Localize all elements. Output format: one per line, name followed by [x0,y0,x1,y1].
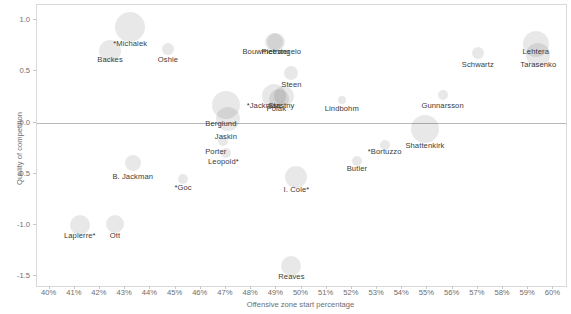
data-point-label: Steen [281,79,301,88]
data-point-label: Gunnarsson [421,101,463,110]
x-axis-tick-mark [376,286,377,289]
x-axis-tick-mark [175,286,176,289]
x-axis-tick-label: 51% [318,288,333,297]
data-point-label: Tarasenko [520,60,556,69]
x-axis-tick-label: 50% [293,288,308,297]
plot-area: *MichalekBackesOshieBouwmeesterPietrange… [36,4,567,287]
x-axis-tick-mark [301,286,302,289]
y-axis: Quality of competition 1.00.50.0-0.5-1.0… [0,4,36,285]
data-point-label: B. Jackman [112,171,153,180]
data-point-bubble [438,90,448,100]
data-point-label: Polak [267,104,287,113]
x-axis: 40%41%42%43%44%45%46%47%48%49%50%51%52%5… [36,286,565,300]
data-point-label: Lapierre* [64,230,96,239]
bubble-scatter-chart: Quality of competition 1.00.50.0-0.5-1.0… [0,0,571,314]
x-axis-tick-mark [527,286,528,289]
x-axis-tick-label: 55% [419,288,434,297]
x-axis-tick-label: 49% [268,288,283,297]
x-axis-tick-mark [74,286,75,289]
x-axis-tick-label: 52% [343,288,358,297]
x-axis-tick-label: 53% [368,288,383,297]
x-axis-tick-label: 56% [444,288,459,297]
x-axis-tick-mark [351,286,352,289]
data-point-label: *Goc [174,182,191,191]
x-axis-tick-label: 45% [167,288,182,297]
y-axis-tick-label: 0.0 [19,117,30,126]
data-point-bubble [472,47,484,59]
y-axis-tick-label: 0.5 [19,66,30,75]
x-axis-tick-label: 41% [66,288,81,297]
data-point-label: Berglund [205,118,236,127]
data-point-label: Porter [205,147,226,156]
data-point-bubble [411,115,439,143]
data-point-label: Lindbohm [325,104,359,113]
x-axis-tick-mark [200,286,201,289]
x-axis-tick-label: 54% [394,288,409,297]
x-axis-tick-label: 58% [494,288,509,297]
x-axis-tick-mark [149,286,150,289]
x-axis-tick-mark [552,286,553,289]
x-axis-tick-mark [250,286,251,289]
data-point-bubble [212,91,240,119]
y-axis-tick-label: -1.0 [17,219,30,228]
x-axis-tick-mark [502,286,503,289]
data-point-label: Pietrangelo [262,46,302,55]
x-axis-tick-mark [225,286,226,289]
x-axis-tick-label: 60% [545,288,560,297]
x-axis-tick-mark [452,286,453,289]
x-axis-tick-label: 44% [142,288,157,297]
x-axis-tick-label: 40% [41,288,56,297]
y-axis-tick-label: 1.0 [19,15,30,24]
x-axis-tick-label: 48% [243,288,258,297]
y-axis-tick-label: -1.5 [17,270,30,279]
data-point-label: *Michalek [113,38,147,47]
data-point-label: Backes [97,55,123,64]
data-point-bubble [162,43,174,55]
data-point-label: Lehtera [523,46,549,55]
x-axis-tick-label: 47% [217,288,232,297]
zero-reference-line [37,123,566,124]
x-axis-tick-mark [401,286,402,289]
x-axis-title: Offensive zone start percentage [36,300,565,309]
x-axis-tick-mark [426,286,427,289]
x-axis-tick-mark [99,286,100,289]
data-point-label: Butler [347,164,367,173]
data-point-label: *Bortuzzo [368,147,402,156]
x-axis-tick-mark [275,286,276,289]
x-axis-tick-mark [477,286,478,289]
x-axis-tick-label: 46% [192,288,207,297]
data-point-label: Leopold* [208,157,239,166]
x-axis-tick-label: 43% [117,288,132,297]
data-point-label: Oshie [158,55,178,64]
y-axis-tick-label: -0.5 [17,168,30,177]
data-point-label: Schwartz [462,60,494,69]
x-axis-tick-label: 57% [469,288,484,297]
data-point-label: I. Cole* [284,184,310,193]
x-axis-tick-label: 59% [520,288,535,297]
x-axis-tick-mark [124,286,125,289]
data-point-label: Jaskin [215,131,237,140]
data-point-label: Ott [110,230,120,239]
x-axis-tick-mark [326,286,327,289]
data-point-bubble [125,155,141,171]
data-point-label: Shattenkirk [405,140,444,149]
x-axis-tick-label: 42% [91,288,106,297]
data-point-label: Reaves [278,271,304,280]
x-axis-tick-mark [49,286,50,289]
